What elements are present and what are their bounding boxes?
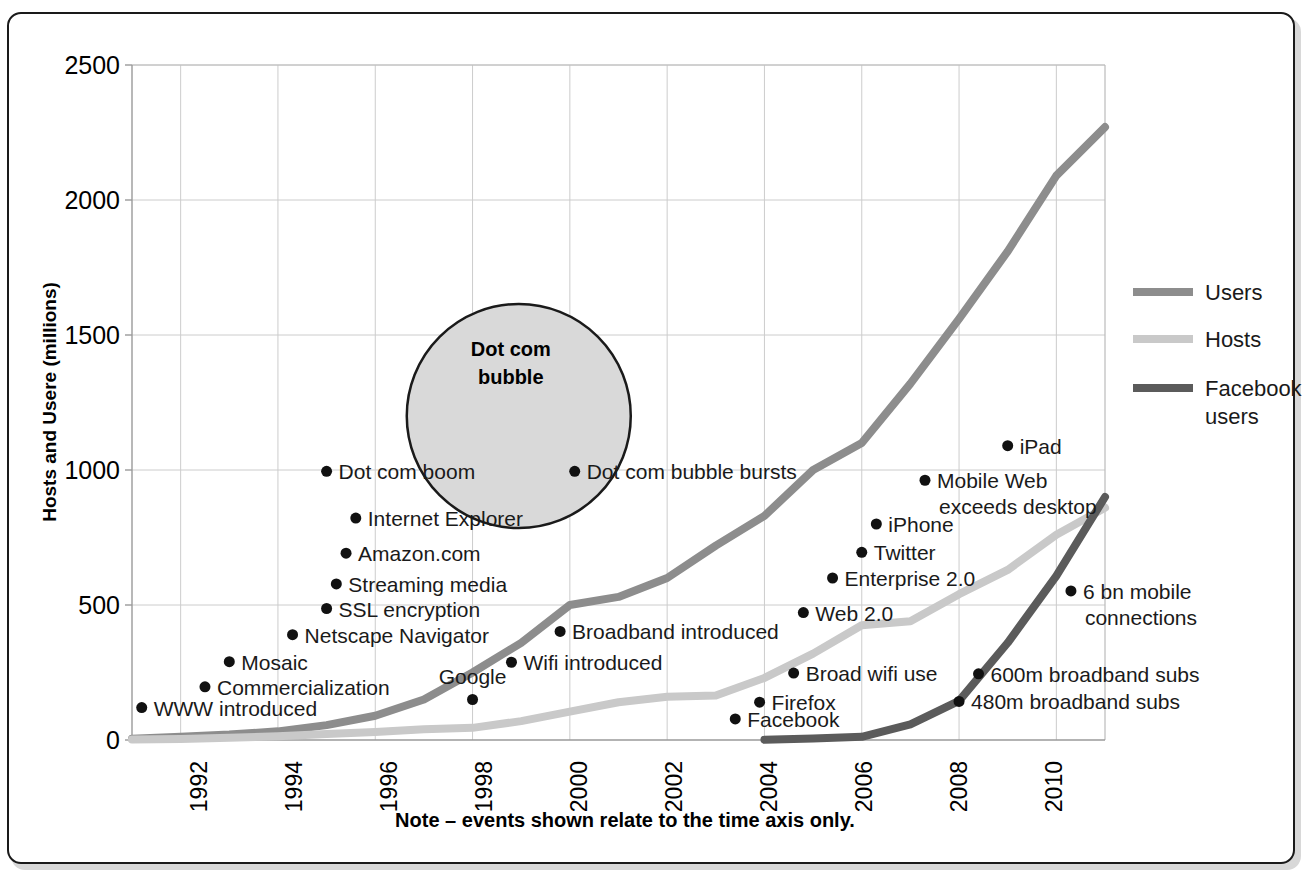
annotation-dot: [919, 475, 930, 486]
bubble-title-line2: bubble: [478, 366, 544, 388]
legend-label-users: Users: [1205, 280, 1262, 305]
x-tick-2010: 2010: [1041, 761, 1067, 812]
y-tick-0: 0: [106, 726, 120, 754]
annotation-dot: [136, 702, 147, 713]
dot-com-bubble-annotation: Dot combubble: [407, 304, 631, 528]
x-tick-1994: 1994: [281, 761, 307, 812]
annotation-dot: [506, 657, 517, 668]
annotation-dot: [321, 603, 332, 614]
annotation-dot: [871, 519, 882, 530]
y-tick-2500: 2500: [64, 51, 120, 79]
annotation-label: Broad wifi use: [806, 662, 938, 685]
annotation-dot: [287, 629, 298, 640]
y-tick-500: 500: [78, 591, 120, 619]
annotation-label: WWW introduced: [154, 697, 317, 720]
annotation-dot: [350, 513, 361, 524]
annotation-dot: [954, 696, 965, 707]
annotation-dot: [754, 697, 765, 708]
annotation-label: 600m broadband subs: [991, 663, 1200, 686]
annotation-label: Broadband introduced: [572, 620, 779, 643]
legend-label-facebook-line2: users: [1205, 404, 1259, 429]
annotation-dot: [199, 681, 210, 692]
annotation-label: Commercialization: [217, 676, 390, 699]
annotation-label: SSL encryption: [339, 598, 481, 621]
annotation-dot: [331, 578, 342, 589]
x-tick-1998: 1998: [471, 761, 497, 812]
annotation-dot: [730, 713, 741, 724]
x-tick-1996: 1996: [376, 761, 402, 812]
annotation-label: Enterprise 2.0: [845, 567, 976, 590]
annotation-dot: [569, 466, 580, 477]
annotation-dot: [1002, 440, 1013, 451]
chart-note: Note – events shown relate to the time a…: [395, 809, 855, 831]
annotation-label: Mobile Web: [937, 469, 1048, 492]
annotation-dot: [827, 573, 838, 584]
annotation-label: exceeds desktop: [939, 495, 1097, 518]
annotation-label: Google: [439, 665, 507, 688]
annotation-dot: [788, 668, 799, 679]
legend-label-facebook: Facebook: [1205, 376, 1303, 401]
annotation-dot: [467, 694, 478, 705]
x-tick-2000: 2000: [566, 761, 592, 812]
annotation-label: Web 2.0: [815, 602, 893, 625]
annotation-label: Amazon.com: [358, 542, 481, 565]
y-tick-1500: 1500: [64, 321, 120, 349]
annotation-label: Dot com boom: [339, 460, 476, 483]
annotation-label: Streaming media: [348, 573, 507, 596]
annotation-label: 6 bn mobile: [1083, 580, 1192, 603]
annotation-dot: [224, 656, 235, 667]
x-tick-2004: 2004: [756, 761, 782, 812]
event-annotations: WWW introducedCommercializationMosaicNet…: [136, 435, 1199, 731]
annotation-dot: [973, 668, 984, 679]
x-tick-1992: 1992: [186, 761, 212, 812]
annotation-dot: [1065, 585, 1076, 596]
annotation-label: Mosaic: [241, 651, 308, 674]
chart-page: Dot combubble WWW introducedCommercializ…: [0, 0, 1308, 884]
y-axis-title: Hosts and Usere (millions): [39, 282, 60, 522]
annotation-label: Internet Explorer: [368, 507, 523, 530]
legend-label-hosts: Hosts: [1205, 327, 1261, 352]
annotation-label: connections: [1085, 606, 1197, 629]
annotation-dot: [856, 547, 867, 558]
annotation-label: Netscape Navigator: [305, 624, 489, 647]
y-tick-1000: 1000: [64, 456, 120, 484]
annotation-label: iPad: [1020, 435, 1062, 458]
annotation-label: Dot com bubble bursts: [587, 460, 797, 483]
internet-growth-line-chart: Dot combubble WWW introducedCommercializ…: [0, 0, 1308, 884]
x-tick-2008: 2008: [946, 761, 972, 812]
annotation-label: Firefox: [772, 691, 837, 714]
annotation-label: Twitter: [874, 541, 936, 564]
chart-legend: Users Hosts Facebook users: [1133, 280, 1303, 429]
y-tick-2000: 2000: [64, 186, 120, 214]
annotation-dot: [341, 548, 352, 559]
x-tick-2006: 2006: [851, 761, 877, 812]
annotation-label: 480m broadband subs: [971, 690, 1180, 713]
annotation-dot: [321, 466, 332, 477]
annotation-dot: [555, 626, 566, 637]
bubble-title-line1: Dot com: [471, 338, 551, 360]
annotation-dot: [798, 607, 809, 618]
x-tick-2002: 2002: [661, 761, 687, 812]
annotation-label: Wifi introduced: [523, 651, 662, 674]
